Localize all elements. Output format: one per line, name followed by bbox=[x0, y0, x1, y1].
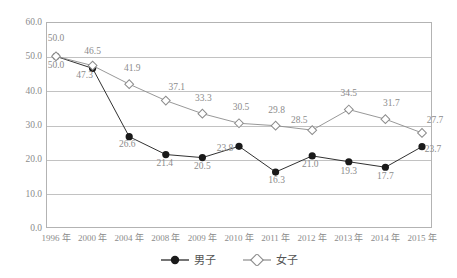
data-label-female: 33.3 bbox=[183, 93, 223, 103]
data-label-female: 30.5 bbox=[221, 102, 261, 112]
filled-circle-marker-icon bbox=[160, 254, 190, 266]
data-label-male: 19.3 bbox=[329, 166, 369, 176]
data-label-female: 50.0 bbox=[36, 33, 76, 43]
data-label-female: 37.1 bbox=[157, 82, 197, 92]
open-diamond-marker-icon bbox=[242, 254, 272, 266]
data-label-male: 20.5 bbox=[182, 161, 222, 171]
data-label-male: 46.5 bbox=[73, 46, 113, 56]
legend-label-male: 男子 bbox=[194, 254, 216, 266]
data-label-female: 47.3 bbox=[65, 70, 105, 80]
data-label-female: 27.7 bbox=[415, 115, 455, 125]
data-label-male: 21.4 bbox=[145, 158, 185, 168]
data-label-female: 28.5 bbox=[279, 115, 319, 125]
data-label-male: 21.0 bbox=[290, 159, 330, 169]
data-label-male: 26.6 bbox=[107, 139, 147, 149]
data-label-female: 41.9 bbox=[112, 63, 152, 73]
y-axis-tick-label: 20.0 bbox=[0, 154, 42, 164]
legend-item-female[interactable]: 女子 bbox=[242, 254, 298, 266]
gridline bbox=[47, 57, 431, 58]
gridline bbox=[47, 91, 431, 92]
line-chart: 60.050.040.030.020.010.00.0 1996 年2000 年… bbox=[0, 0, 457, 278]
gridline bbox=[47, 194, 431, 195]
data-label-female: 31.7 bbox=[371, 98, 411, 108]
gridline bbox=[47, 126, 431, 127]
data-label-male: 23.7 bbox=[413, 144, 453, 154]
data-label-female: 29.8 bbox=[257, 105, 297, 115]
y-axis-tick-label: 30.0 bbox=[0, 120, 42, 130]
y-axis-tick-label: 0.0 bbox=[0, 223, 42, 233]
x-axis-tick-label: 2015 年 bbox=[392, 233, 452, 243]
y-axis-tick-label: 60.0 bbox=[0, 17, 42, 27]
data-label-male: 16.3 bbox=[257, 175, 297, 185]
data-label-male: 17.7 bbox=[365, 171, 405, 181]
legend-label-female: 女子 bbox=[276, 254, 298, 266]
gridline bbox=[47, 160, 431, 161]
y-axis-tick-label: 10.0 bbox=[0, 189, 42, 199]
chart-legend: 男子 女子 bbox=[0, 254, 457, 266]
y-axis-tick-label: 40.0 bbox=[0, 86, 42, 96]
data-label-male: 23.8 bbox=[205, 143, 245, 153]
legend-item-male[interactable]: 男子 bbox=[160, 254, 216, 266]
data-label-female: 34.5 bbox=[329, 88, 369, 98]
